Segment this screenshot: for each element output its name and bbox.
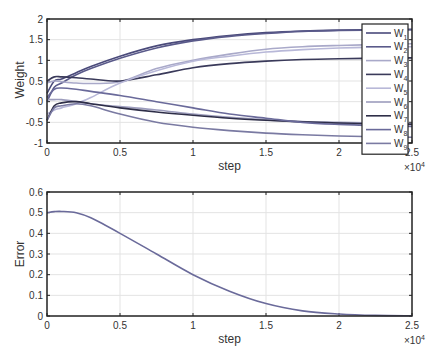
- x-exponent-label: ×104: [404, 334, 425, 346]
- x-tick-label: 1: [190, 320, 196, 331]
- y-tick-label: 2: [37, 14, 43, 25]
- x-tick-label: 2: [336, 320, 342, 331]
- figure: 00.511.522.5-1-0.500.511.52stepWeight×10…: [0, 0, 437, 362]
- x-tick-label: 1.5: [259, 320, 273, 331]
- y-tick-label: 0.4: [29, 228, 43, 239]
- y-tick-label: 0.3: [29, 249, 43, 260]
- y-tick-label: 0.5: [29, 76, 43, 87]
- error-plot: 00.511.522.500.10.20.30.40.50.6stepError…: [13, 187, 425, 347]
- x-tick-label: 2.5: [405, 320, 419, 331]
- x-exponent-label: ×104: [404, 161, 425, 173]
- x-tick-label: 1.5: [259, 147, 273, 158]
- x-tick-label: 2: [336, 147, 342, 158]
- y-tick-label: 0: [37, 311, 43, 322]
- y-tick-label: -0.5: [26, 117, 44, 128]
- y-axis-label: Error: [13, 241, 27, 268]
- x-tick-label: 1: [190, 147, 196, 158]
- x-tick-label: 0: [44, 147, 50, 158]
- y-tick-label: 1.5: [29, 34, 43, 45]
- y-axis-label: Weight: [13, 61, 27, 99]
- x-axis-label: step: [218, 159, 241, 173]
- legend: W1W2W3W4W5W6W7W8W9: [362, 24, 408, 154]
- y-tick-label: -1: [34, 138, 43, 149]
- y-tick-label: 0.6: [29, 187, 43, 198]
- y-tick-label: 1: [37, 55, 43, 66]
- y-tick-label: 0.2: [29, 269, 43, 280]
- x-axis-label: step: [218, 332, 241, 346]
- y-tick-label: 0.1: [29, 290, 43, 301]
- x-tick-label: 0.5: [113, 147, 127, 158]
- y-tick-label: 0.5: [29, 207, 43, 218]
- y-tick-label: 0: [37, 96, 43, 107]
- x-tick-label: 0.5: [113, 320, 127, 331]
- weight-plot: 00.511.522.5-1-0.500.511.52stepWeight×10…: [13, 14, 425, 174]
- x-tick-label: 0: [44, 320, 50, 331]
